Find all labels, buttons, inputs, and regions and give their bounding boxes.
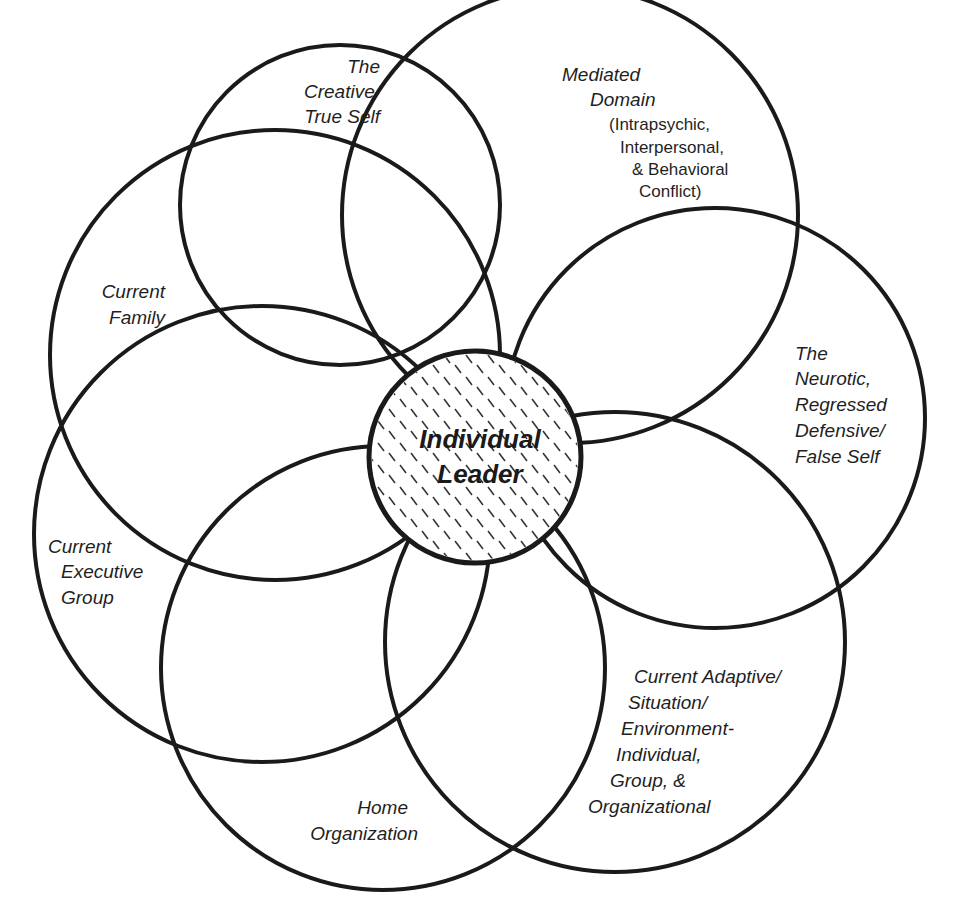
svg-text:The: The xyxy=(347,56,380,77)
svg-text:Executive: Executive xyxy=(61,561,143,582)
svg-text:True Self: True Self xyxy=(304,106,381,127)
svg-text:Current: Current xyxy=(48,536,112,557)
leadership-domains-diagram: Individual Leader The Creative/ True Sel… xyxy=(0,0,957,909)
svg-text:False Self: False Self xyxy=(795,446,881,467)
svg-text:Interpersonal,: Interpersonal, xyxy=(620,138,724,157)
svg-text:Group: Group xyxy=(61,587,114,608)
label-neurotic-false-self: The Neurotic, Regressed Defensive/ False… xyxy=(795,343,888,467)
svg-text:Creative/: Creative/ xyxy=(304,81,382,102)
label-creative-true-self: The Creative/ True Self xyxy=(304,56,382,127)
label-mediated-domain: Mediated Domain (Intrapsychic, Interpers… xyxy=(562,64,728,201)
svg-text:Conflict): Conflict) xyxy=(639,182,701,201)
label-current-adaptive: Current Adaptive/ Situation/ Environment… xyxy=(588,666,783,817)
svg-text:Individual,: Individual, xyxy=(616,744,702,765)
svg-text:Home: Home xyxy=(357,797,408,818)
svg-text:Current: Current xyxy=(102,281,166,302)
svg-text:Neurotic,: Neurotic, xyxy=(795,368,871,389)
svg-text:(Intrapsychic,: (Intrapsychic, xyxy=(609,115,710,134)
svg-text:Domain: Domain xyxy=(590,89,655,110)
svg-text:& Behavioral: & Behavioral xyxy=(632,160,728,179)
svg-text:Family: Family xyxy=(109,307,166,328)
svg-text:The: The xyxy=(795,343,828,364)
svg-text:Defensive/: Defensive/ xyxy=(795,420,886,441)
svg-text:Group, &: Group, & xyxy=(610,770,686,791)
hatch-fill xyxy=(372,354,578,560)
svg-text:Environment-: Environment- xyxy=(621,718,734,739)
label-current-family: Current Family xyxy=(102,281,167,328)
svg-text:Regressed: Regressed xyxy=(795,394,888,415)
svg-text:Organizational: Organizational xyxy=(588,796,711,817)
label-home-organization: Home Organization xyxy=(310,797,418,844)
svg-text:Current Adaptive/: Current Adaptive/ xyxy=(634,666,783,687)
svg-text:Mediated: Mediated xyxy=(562,64,642,85)
svg-text:Organization: Organization xyxy=(310,823,418,844)
center-label-line2: Leader xyxy=(437,459,524,489)
label-current-executive-group: Current Executive Group xyxy=(48,536,143,608)
center-label-line1: Individual xyxy=(419,424,541,454)
svg-text:Situation/: Situation/ xyxy=(628,692,709,713)
